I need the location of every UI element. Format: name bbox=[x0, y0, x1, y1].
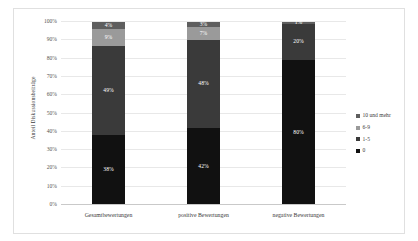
y-axis-tick-label: 100% bbox=[44, 18, 57, 24]
legend-label: 10 und mehr bbox=[363, 113, 391, 119]
stacked-bar[interactable]: 1%20%80% bbox=[282, 22, 314, 205]
legend-label: 6-9 bbox=[363, 125, 370, 131]
legend: 10 und mehr6-91-50 bbox=[356, 113, 391, 154]
y-axis-tick-label: 10% bbox=[47, 183, 57, 189]
legend-swatch-icon bbox=[356, 114, 360, 118]
legend-item[interactable]: 0 bbox=[356, 148, 391, 154]
legend-swatch-icon bbox=[356, 137, 360, 141]
bar-segment[interactable]: 9% bbox=[92, 29, 124, 45]
bar-segment[interactable]: 49% bbox=[92, 46, 124, 136]
stacked-bar[interactable]: 3%7%48%42% bbox=[187, 22, 219, 205]
bar-segment-label: 7% bbox=[200, 31, 207, 37]
legend-swatch-icon bbox=[356, 126, 360, 130]
bar-segment-label: 9% bbox=[105, 35, 112, 41]
y-axis-tick-label: 30% bbox=[47, 146, 57, 152]
bar-segment-label: 42% bbox=[198, 164, 208, 170]
x-axis-line bbox=[61, 204, 346, 205]
bar-segment-label: 38% bbox=[103, 167, 113, 173]
bar-segment[interactable]: 38% bbox=[92, 135, 124, 205]
bar-segment[interactable]: 48% bbox=[187, 40, 219, 128]
bar-group: 1%20%80%negative Bewertungen bbox=[251, 22, 346, 205]
bar-segment-label: 80% bbox=[293, 130, 303, 136]
y-axis-tick-label: 40% bbox=[47, 128, 57, 134]
bar-segment[interactable]: 4% bbox=[92, 22, 124, 29]
y-axis-tick-label: 20% bbox=[47, 164, 57, 170]
y-axis-tick-label: 90% bbox=[47, 36, 57, 42]
x-axis-category-label: Gesamtbewertungen bbox=[85, 212, 133, 218]
y-axis-tick-label: 80% bbox=[47, 55, 57, 61]
bar-segment[interactable]: 80% bbox=[282, 60, 314, 205]
y-axis-tick-label: 60% bbox=[47, 91, 57, 97]
bar-segment-label: 4% bbox=[105, 23, 112, 29]
legend-label: 1-5 bbox=[363, 137, 370, 143]
bar-segment[interactable]: 7% bbox=[187, 27, 219, 40]
legend-item[interactable]: 1-5 bbox=[356, 137, 391, 143]
plot-area: 0%10%20%30%40%50%60%70%80%90%100% 4%9%49… bbox=[61, 22, 346, 205]
legend-item[interactable]: 6-9 bbox=[356, 125, 391, 131]
chart-frame: Anteil Diskussionsbeiträge 0%10%20%30%40… bbox=[13, 8, 405, 234]
y-axis-title: Anteil Diskussionsbeiträge bbox=[30, 43, 36, 173]
x-axis-category-label: negative Bewertungen bbox=[273, 212, 325, 218]
bar-segment[interactable]: 20% bbox=[282, 24, 314, 60]
legend-item[interactable]: 10 und mehr bbox=[356, 113, 391, 119]
bar-group: 3%7%48%42%positive Bewertungen bbox=[156, 22, 251, 205]
bar-segment-label: 49% bbox=[103, 88, 113, 94]
legend-label: 0 bbox=[363, 148, 366, 154]
bar-group: 4%9%49%38%Gesamtbewertungen bbox=[61, 22, 156, 205]
bar-segment-label: 20% bbox=[293, 39, 303, 45]
bar-segment[interactable]: 42% bbox=[187, 128, 219, 205]
x-axis-category-label: positive Bewertungen bbox=[178, 212, 229, 218]
stacked-bar[interactable]: 4%9%49%38% bbox=[92, 22, 124, 205]
y-axis-tick-label: 50% bbox=[47, 110, 57, 116]
bar-segment-label: 48% bbox=[198, 81, 208, 87]
legend-swatch-icon bbox=[356, 149, 360, 153]
y-axis-tick-label: 70% bbox=[47, 73, 57, 79]
y-axis-tick-label: 0% bbox=[50, 201, 57, 207]
